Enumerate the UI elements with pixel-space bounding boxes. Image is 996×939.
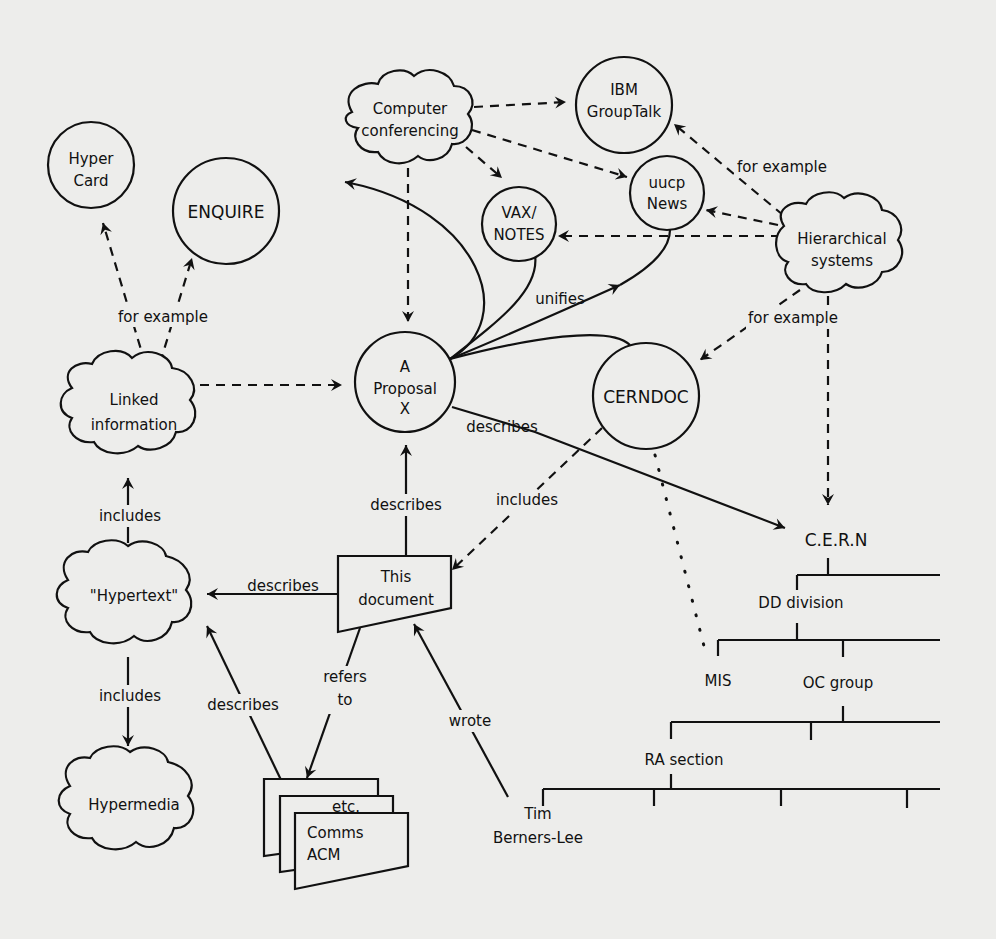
org-chart: C.E.R.N DD division MIS OC group RA sect… bbox=[543, 530, 940, 808]
label-includes-linked: includes bbox=[99, 507, 161, 525]
proposal-diagram: Hyper Card ENQUIRE Computer conferencing… bbox=[0, 0, 996, 939]
label-describes-cern: describes bbox=[466, 418, 538, 436]
node-hierarchical-line1: Hierarchical bbox=[797, 230, 886, 248]
node-enquire[interactable]: ENQUIRE bbox=[173, 158, 279, 264]
label-refers: refers bbox=[323, 668, 367, 686]
node-vax-line2: NOTES bbox=[493, 226, 544, 244]
node-this-document[interactable]: This document bbox=[338, 556, 451, 632]
node-comms-acm[interactable]: etc. Comms ACM bbox=[264, 779, 408, 889]
node-hypercard[interactable]: Hyper Card bbox=[48, 122, 134, 208]
edge-hierarchical-to-uucp bbox=[706, 210, 778, 225]
org-mis[interactable]: MIS bbox=[705, 672, 732, 690]
node-uucp-news[interactable]: uucp News bbox=[630, 156, 704, 230]
node-enquire-label: ENQUIRE bbox=[188, 202, 265, 222]
node-tim-berners-lee[interactable]: Tim Berners-Lee bbox=[493, 805, 583, 847]
node-linked-line1: Linked bbox=[110, 391, 159, 409]
edge-conferencing-to-vax bbox=[466, 147, 502, 178]
label-unifies: unifies bbox=[535, 290, 585, 308]
node-hypercard-line2: Card bbox=[73, 172, 108, 190]
node-proposal-line3: X bbox=[400, 400, 410, 418]
node-computer-conferencing[interactable]: Computer conferencing bbox=[346, 70, 473, 163]
label-describes-hypertext: describes bbox=[247, 577, 319, 595]
org-oc-group[interactable]: OC group bbox=[803, 674, 874, 692]
node-vax-notes[interactable]: VAX/ NOTES bbox=[482, 187, 556, 261]
label-for-example-right: for example bbox=[748, 309, 838, 327]
node-vax-line1: VAX/ bbox=[502, 204, 538, 222]
node-ibm-line1: IBM bbox=[610, 81, 638, 99]
edge-unifies-to-uucp bbox=[620, 230, 670, 285]
node-hypertext[interactable]: "Hypertext" bbox=[57, 540, 192, 643]
diagram-canvas: Hyper Card ENQUIRE Computer conferencing… bbox=[0, 0, 996, 939]
label-for-example-top-right: for example bbox=[737, 158, 827, 176]
node-hierarchical-line2: systems bbox=[811, 252, 873, 270]
node-hierarchical-systems[interactable]: Hierarchical systems bbox=[776, 192, 902, 292]
node-cerndoc[interactable]: CERNDOC bbox=[593, 343, 699, 449]
node-hypermedia[interactable]: Hypermedia bbox=[59, 746, 194, 849]
org-ra-section[interactable]: RA section bbox=[645, 751, 724, 769]
node-document-line1: This bbox=[380, 568, 412, 586]
node-uucp-line2: News bbox=[647, 195, 688, 213]
node-ibm-line2: GroupTalk bbox=[587, 103, 662, 121]
label-for-example-left: for example bbox=[118, 308, 208, 326]
label-wrote: wrote bbox=[449, 712, 491, 730]
node-document-line2: document bbox=[358, 591, 434, 609]
node-conferencing-line1: Computer bbox=[373, 100, 448, 118]
label-to: to bbox=[337, 691, 352, 709]
node-proposal-line1: A bbox=[400, 358, 411, 376]
node-linked-line2: information bbox=[91, 416, 178, 434]
label-includes-hypermedia: includes bbox=[99, 687, 161, 705]
edge-cerndoc-mis-dotted bbox=[655, 455, 705, 650]
org-cern[interactable]: C.E.R.N bbox=[805, 530, 868, 550]
node-proposal[interactable]: A Proposal X bbox=[355, 332, 455, 432]
node-conferencing-line2: conferencing bbox=[361, 122, 458, 140]
node-proposal-line2: Proposal bbox=[373, 380, 437, 398]
label-describes-comms: describes bbox=[207, 696, 279, 714]
node-hypertext-label: "Hypertext" bbox=[90, 587, 178, 605]
label-describes-proposal: describes bbox=[370, 496, 442, 514]
node-tim-line2: Berners-Lee bbox=[493, 829, 583, 847]
edge-conferencing-to-ibm bbox=[474, 102, 566, 107]
label-includes-cerndoc: includes bbox=[496, 491, 558, 509]
node-ibm-grouptalk[interactable]: IBM GroupTalk bbox=[576, 57, 672, 153]
node-hypermedia-label: Hypermedia bbox=[88, 796, 180, 814]
node-linked-information[interactable]: Linked information bbox=[61, 351, 196, 453]
node-tim-line1: Tim bbox=[523, 805, 551, 823]
org-dd-division[interactable]: DD division bbox=[758, 594, 843, 612]
node-cerndoc-label: CERNDOC bbox=[603, 387, 688, 407]
node-comms-line2: ACM bbox=[307, 846, 340, 864]
node-hypercard-line1: Hyper bbox=[68, 150, 114, 168]
node-uucp-line1: uucp bbox=[649, 174, 686, 192]
node-comms-line1: Comms bbox=[307, 824, 364, 842]
edge-linked-to-hypercard bbox=[103, 223, 145, 363]
